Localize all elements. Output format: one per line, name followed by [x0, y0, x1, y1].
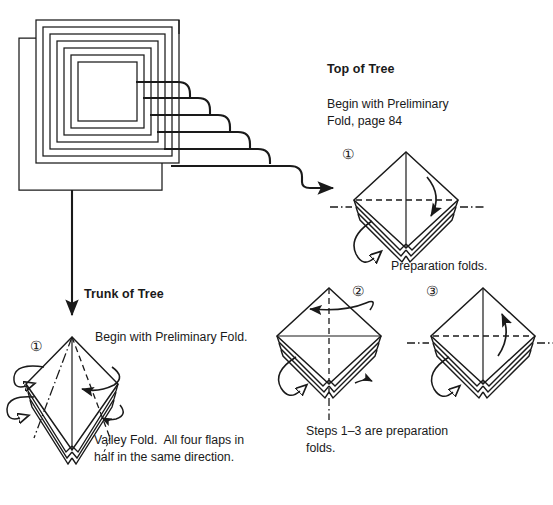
caption-steps-1-3-line1: Steps 1–3 are preparation: [306, 424, 448, 439]
top-of-tree-step1-figure: [330, 152, 486, 262]
top-of-tree-instruction-line1: Begin with Preliminary: [327, 97, 449, 112]
curved-fold-arrow: [310, 302, 373, 310]
step-number-1-top: ①: [342, 146, 355, 163]
caption-steps-1-3-line2: folds.: [306, 441, 335, 456]
step-number-3-top: ③: [426, 283, 439, 300]
step-number-2-top: ②: [352, 283, 365, 300]
small-fold-arrow: [355, 380, 372, 383]
curved-fold-arrow: [427, 177, 436, 216]
top-of-tree-step3-figure: [407, 288, 553, 398]
nested-squares-paper-stack: [19, 20, 179, 190]
trunk-of-tree-heading: Trunk of Tree: [84, 287, 164, 302]
top-of-tree-heading: Top of Tree: [327, 62, 395, 77]
top-of-tree-step2-figure: [277, 288, 381, 420]
curved-fold-arrow: [498, 314, 506, 356]
caption-valley-fold-line2: half in the same direction.: [94, 450, 234, 465]
origami-diagram-page: Top of Tree Begin with Preliminary Fold,…: [0, 0, 553, 505]
caption-preparation-folds: Preparation folds.: [391, 259, 487, 274]
diagram-artwork: [0, 0, 553, 505]
caption-valley-fold-line1: Valley Fold. All four flaps in: [94, 433, 244, 448]
top-of-tree-instruction-line2: Fold, page 84: [327, 114, 402, 129]
trunk-of-tree-instruction: Begin with Preliminary Fold.: [95, 330, 247, 345]
loop-turn-arrow: [354, 221, 374, 262]
step-number-1-trunk: ①: [30, 338, 43, 355]
